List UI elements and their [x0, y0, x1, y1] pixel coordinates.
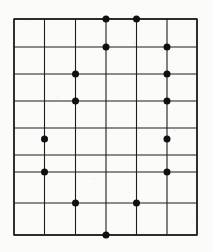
- lattice-dot: [164, 169, 171, 176]
- figure-canvas: [0, 0, 213, 252]
- lattice-dot: [133, 200, 140, 207]
- lattice-dot: [41, 169, 48, 176]
- lattice-dot: [41, 136, 48, 143]
- lattice-dot: [103, 44, 110, 51]
- lattice-dot: [72, 200, 79, 207]
- lattice-dot: [103, 16, 110, 23]
- lattice-dot: [133, 16, 140, 23]
- lattice-dot: [72, 71, 79, 78]
- lattice-dot: [164, 98, 171, 105]
- lattice-dot: [164, 44, 171, 51]
- lattice-dot: [164, 71, 171, 78]
- lattice-dot: [103, 232, 110, 239]
- grid-dot-figure: [0, 0, 213, 252]
- lattice-dot: [72, 98, 79, 105]
- lattice-dot: [164, 136, 171, 143]
